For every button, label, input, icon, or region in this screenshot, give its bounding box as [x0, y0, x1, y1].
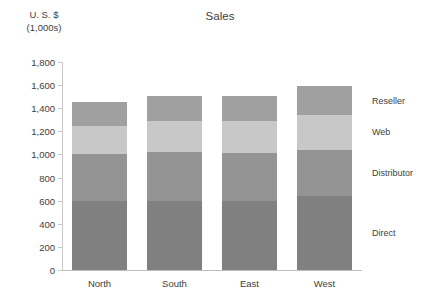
bar-segment[interactable]: [297, 86, 352, 115]
bar-segment[interactable]: [72, 201, 127, 270]
y-tick-label: 1,600: [31, 80, 55, 91]
y-tick-label: 1,000: [31, 149, 55, 160]
y-tick-label: 1,800: [31, 57, 55, 68]
bar-segment[interactable]: [222, 201, 277, 270]
y-tick-mark: [58, 108, 62, 109]
y-tick-mark: [58, 201, 62, 202]
legend-label-web[interactable]: Web: [372, 127, 390, 137]
x-axis-label-north: North: [72, 278, 127, 289]
x-axis-label-south: South: [147, 278, 202, 289]
bar-segment[interactable]: [72, 102, 127, 125]
plot-area: 02004006008001,0001,2001,4001,6001,800: [62, 62, 362, 270]
y-tick-label: 600: [39, 195, 55, 206]
y-tick-mark: [58, 270, 62, 271]
bar-group[interactable]: [72, 62, 127, 270]
bar-segment[interactable]: [297, 115, 352, 150]
bar-group[interactable]: [297, 62, 352, 270]
y-tick-label: 400: [39, 218, 55, 229]
bar-segment[interactable]: [147, 152, 202, 201]
y-tick-label: 0: [50, 265, 55, 276]
y-tick-label: 1,200: [31, 126, 55, 137]
x-axis-line: [62, 270, 362, 271]
y-tick-mark: [58, 85, 62, 86]
bar-segment[interactable]: [147, 121, 202, 152]
y-tick-mark: [58, 178, 62, 179]
y-tick-mark: [58, 154, 62, 155]
bar-segment[interactable]: [72, 154, 127, 200]
y-axis-title-line-2: (1,000s): [8, 21, 80, 34]
x-axis-label-east: East: [222, 278, 277, 289]
chart-title: Sales: [60, 10, 380, 22]
y-tick-mark: [58, 247, 62, 248]
y-tick-label: 1,400: [31, 103, 55, 114]
bar-segment[interactable]: [147, 201, 202, 270]
bar-segment[interactable]: [222, 96, 277, 121]
sales-stacked-bar-chart: U. S. $ (1,000s) Sales 02004006008001,00…: [0, 0, 440, 308]
y-axis-line: [62, 62, 63, 270]
bar-segment[interactable]: [297, 150, 352, 196]
y-tick-label: 800: [39, 172, 55, 183]
bar-segment[interactable]: [147, 96, 202, 121]
y-tick-label: 200: [39, 241, 55, 252]
bar-segment[interactable]: [222, 153, 277, 200]
legend-label-distributor[interactable]: Distributor: [372, 168, 413, 178]
bar-segment[interactable]: [297, 196, 352, 270]
y-tick-mark: [58, 62, 62, 63]
bar-segment[interactable]: [222, 121, 277, 153]
y-tick-mark: [58, 131, 62, 132]
bar-group[interactable]: [147, 62, 202, 270]
y-tick-mark: [58, 224, 62, 225]
legend-label-reseller[interactable]: Reseller: [372, 96, 405, 106]
x-axis-label-west: West: [297, 278, 352, 289]
legend-label-direct[interactable]: Direct: [372, 228, 396, 238]
bar-group[interactable]: [222, 62, 277, 270]
bar-segment[interactable]: [72, 126, 127, 155]
